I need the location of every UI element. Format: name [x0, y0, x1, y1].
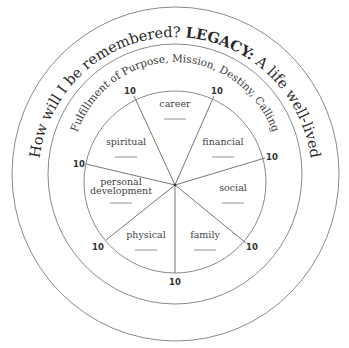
score-left: 10 [73, 159, 85, 169]
hub-dot [174, 184, 177, 187]
segment-financial: financial [202, 136, 243, 157]
segment-spiritual: spiritual [106, 136, 146, 157]
spoke-right [175, 158, 265, 185]
segment-career: career [159, 98, 191, 119]
segment-physical: physical [126, 229, 166, 250]
segment-label: family [190, 229, 220, 240]
score-bottom: 10 [169, 277, 181, 287]
score-lower-left: 10 [92, 242, 104, 252]
segment-family: family [190, 229, 220, 250]
segment-label-line2: development [90, 185, 152, 196]
score-right: 10 [266, 152, 278, 162]
segment-social: social [219, 182, 247, 203]
segment-label: financial [202, 136, 243, 147]
segment-label: physical [126, 229, 166, 240]
segment-label: career [159, 98, 191, 109]
segment-personal-development: personal development [90, 176, 152, 203]
score-top-left: 10 [124, 86, 136, 96]
score-lower-right: 10 [246, 242, 258, 252]
purpose-subtitle: Fulfillment of Purpose, Mission, Destiny… [68, 52, 283, 134]
wheel-of-life-diagram: How will I be remembered? LEGACY: A life… [0, 0, 349, 348]
segment-label: social [219, 182, 247, 193]
score-top-right: 10 [211, 86, 223, 96]
segment-label: spiritual [106, 136, 146, 147]
